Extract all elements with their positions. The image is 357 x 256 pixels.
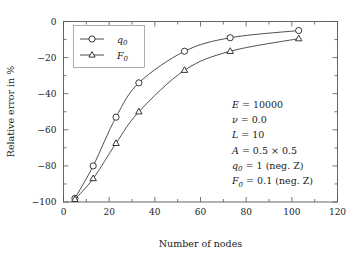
y-tick-label: −40: [38, 89, 57, 99]
x-tick-label: 100: [283, 207, 300, 217]
y-tick-label: −100: [32, 197, 57, 207]
x-tick-label: 60: [195, 207, 207, 217]
y-tick-label: 0: [51, 17, 57, 27]
annotation-line: A = 0.5 × 0.5: [231, 145, 297, 156]
data-point-marker-circle: [113, 114, 119, 120]
chart-container: 020406080100120 0−20−40−60−80−100 Number…: [0, 0, 357, 256]
annotation-line: E = 10000: [231, 99, 283, 110]
x-tick-label: 120: [329, 207, 346, 217]
data-point-marker-circle: [181, 48, 187, 54]
x-tick-label: 20: [103, 207, 115, 217]
relative-error-line-chart: 020406080100120 0−20−40−60−80−100 Number…: [0, 0, 357, 256]
annotation-line: L = 10: [231, 129, 264, 140]
data-point-marker-circle: [136, 80, 142, 86]
data-point-marker-circle: [90, 163, 96, 169]
x-tick-label: 80: [240, 207, 252, 217]
data-point-marker-circle: [227, 35, 233, 41]
legend-marker-circle-icon: [89, 36, 95, 42]
annotation-line: ν = 0.0: [232, 114, 267, 125]
y-tick-label: −20: [38, 53, 57, 63]
y-tick-label: −60: [38, 125, 57, 135]
x-axis-title: Number of nodes: [159, 238, 243, 249]
x-tick-label: 40: [149, 207, 161, 217]
x-tick-label: 0: [61, 207, 67, 217]
y-tick-label: −80: [38, 161, 57, 171]
legend-box: [74, 26, 145, 68]
y-axis-title: Relative error in %: [5, 66, 16, 158]
chart-legend[interactable]: q0 F0: [74, 26, 145, 68]
data-point-marker-circle: [296, 27, 302, 33]
